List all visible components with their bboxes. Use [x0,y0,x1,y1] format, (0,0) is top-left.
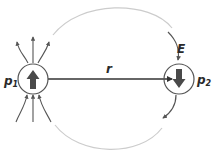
arrow-down-icon [173,69,186,88]
p2-lower-field-arrow [163,95,176,118]
p1-field-line-bottom-right [39,95,51,122]
label-e: E [177,42,186,56]
p1-field-line-top-left [17,42,28,63]
label-p2: p2 [196,73,212,88]
field-loop-lower [55,125,162,149]
dipole-diagram: p1 p2 r E [0,0,215,157]
label-r: r [106,62,113,76]
field-loop-upper [53,8,172,35]
dipole-p1 [18,64,48,94]
label-p1: p1 [3,74,18,89]
p1-field-line-top-right [38,42,49,63]
p1-field-line-bottom-left [16,95,27,122]
